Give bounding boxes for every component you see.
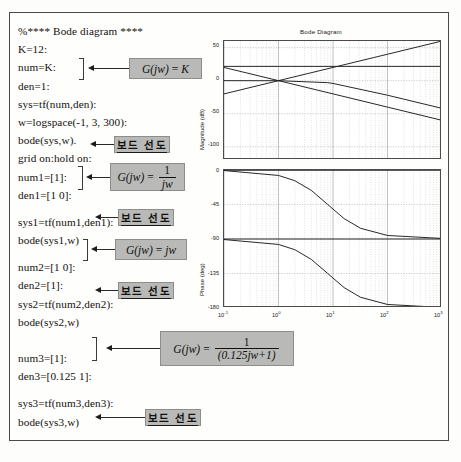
fraction-denominator: (0.125jw+1): [215, 348, 279, 361]
x-tick-label: 10-1: [218, 310, 228, 318]
x-tick-exponent: 3: [440, 310, 442, 315]
arrow-icon: [90, 141, 96, 147]
bode-label-text: 보드 선도: [148, 410, 198, 426]
bode-label-text: 보드 선도: [121, 283, 171, 299]
pha-ytick: -180: [199, 304, 219, 310]
x-tick-label: 100: [272, 310, 281, 318]
arrow-icon: [95, 214, 101, 220]
x-tick-label: 103: [434, 310, 443, 318]
phase-plot-panel: [223, 169, 441, 307]
formula-box-k: G(jw) = K: [129, 58, 202, 79]
phase-axis-label: Phase (deg): [199, 263, 205, 296]
brace-num1-den1: [78, 166, 83, 190]
fraction-numerator: 1: [161, 164, 173, 176]
formula-lag-eq: =: [203, 343, 210, 355]
pha-ytick: -135: [199, 270, 219, 276]
formula-invjw-lhs: G(jw): [117, 171, 144, 183]
leader-line-bode-1: [96, 144, 114, 145]
code-spacer: [18, 385, 198, 394]
formula-jw-rhs: jw: [165, 244, 176, 256]
formula-box-inv-jw: G(jw) = 1 jw: [110, 163, 185, 191]
code-line: den3=[0.125 1]:: [18, 367, 198, 385]
label-box-bode-2: 보드 선도: [118, 209, 174, 226]
bode-label-text: 보드 선도: [117, 137, 167, 153]
leader-line-bode-3: [101, 290, 118, 291]
scanned-page: %**** Bode diagram **** K=12: num=K: den…: [0, 0, 461, 462]
code-line: sys=tf(num,den):: [18, 95, 198, 113]
matlab-code-listing: %**** Bode diagram **** K=12: num=K: den…: [18, 22, 198, 431]
mag-ytick: -50: [199, 108, 219, 114]
fraction: 1 jw: [159, 164, 176, 189]
mag-ytick: 50: [199, 42, 219, 48]
arrow-icon: [91, 246, 97, 252]
pha-ytick: -90: [199, 235, 219, 241]
formula-jw-lhs: G(jw): [126, 244, 153, 256]
bode-label-text: 보드 선도: [121, 210, 171, 226]
pha-ytick: 0: [199, 167, 219, 173]
mag-ytick: 0: [199, 75, 219, 81]
fraction: 1 (0.125jw+1): [215, 336, 279, 361]
label-box-bode-3: 보드 선도: [118, 282, 174, 299]
arrow-icon: [95, 414, 101, 420]
code-line: num2=[1 0]:: [18, 258, 198, 276]
leader-line-k: [94, 68, 129, 69]
code-line: den=1:: [18, 77, 198, 95]
code-line: bode(sys2,w): [18, 313, 198, 331]
formula-box-jw: G(jw) = jw: [115, 239, 187, 260]
mag-ytick: -100: [199, 141, 219, 147]
brace-num-den: [79, 58, 84, 80]
code-line: K=12:: [18, 40, 198, 58]
bode-plot: Bode Diagram Magnitude (dB) Phase (deg) …: [196, 28, 446, 333]
leader-line-invjw: [92, 177, 110, 178]
arrow-icon: [106, 345, 112, 351]
brace-num2-den2: [83, 239, 88, 261]
code-line: bode(sys,w).: [18, 131, 198, 149]
fraction-numerator: 1: [241, 336, 253, 348]
arrow-icon: [88, 65, 94, 71]
fraction-denominator: jw: [159, 177, 176, 190]
code-line: %**** Bode diagram ****: [18, 22, 198, 40]
label-box-bode-4: 보드 선도: [145, 409, 201, 426]
leader-line-lag: [112, 348, 160, 349]
formula-k-rhs: K: [181, 63, 189, 75]
leader-line-jw: [97, 249, 115, 250]
x-tick-label: 101: [326, 310, 335, 318]
formula-invjw-eq: =: [147, 171, 154, 183]
brace-num3-den3: [92, 337, 97, 361]
formula-box-lag: G(jw) = 1 (0.125jw+1): [160, 331, 294, 366]
formula-lag-lhs: G(jw): [173, 343, 200, 355]
leader-line-bode-2: [101, 217, 118, 218]
formula-k-lhs: G(jw): [142, 63, 169, 75]
chart-title: Bode Diagram: [196, 28, 446, 35]
x-tick-exponent: -1: [224, 310, 228, 315]
x-tick-exponent: 1: [332, 310, 334, 315]
formula-jw-eq: =: [156, 244, 163, 256]
arrow-icon: [95, 287, 101, 293]
leader-line-bode-4: [101, 417, 145, 418]
pha-ytick: -45: [199, 201, 219, 207]
formula-k-eq: =: [172, 63, 179, 75]
x-tick-exponent: 2: [386, 310, 388, 315]
x-tick-exponent: 0: [278, 310, 280, 315]
x-tick-label: 102: [380, 310, 389, 318]
magnitude-plot-panel: [223, 40, 441, 159]
label-box-bode-1: 보드 선도: [114, 136, 170, 153]
arrow-icon: [86, 174, 92, 180]
code-line: w=logspace(-1, 3, 300):: [18, 113, 198, 131]
